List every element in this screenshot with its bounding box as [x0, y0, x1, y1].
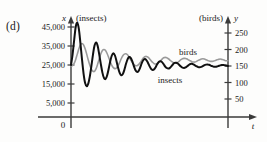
- left-axis-unit-label: (insects): [76, 13, 107, 23]
- right-axis-tick-label: 50: [235, 94, 244, 104]
- right-axis-tick-label: 150: [235, 61, 248, 71]
- series-curve-insects: [71, 23, 228, 87]
- right-axis-tick-label: 250: [235, 28, 248, 38]
- curve-annotation-insects: insects: [158, 75, 183, 85]
- left-axis-name: x: [61, 13, 66, 23]
- left-axis-tick-label: 25,000: [42, 60, 65, 70]
- left-axis-tick-label: 15,000: [42, 79, 65, 89]
- left-axis-tick-label: 35,000: [42, 41, 65, 51]
- right-axis-name: y: [233, 13, 238, 23]
- left-axis-tick-label: 5,000: [46, 98, 65, 108]
- curve-annotation-birds: birds: [179, 47, 197, 57]
- figure-panel: (d) 5,00015,00025,00035,00045,0005010015…: [0, 0, 267, 142]
- right-axis-tick-label: 200: [235, 45, 248, 55]
- right-axis-unit-label: (birds): [199, 13, 223, 23]
- chart-plot: 5,00015,00025,00035,00045,00050100150200…: [0, 0, 267, 142]
- x-axis-name: t: [252, 121, 255, 131]
- right-axis-tick-label: 100: [235, 78, 248, 88]
- left-axis-tick-label: 45,000: [42, 22, 65, 32]
- origin-label: 0: [61, 120, 66, 130]
